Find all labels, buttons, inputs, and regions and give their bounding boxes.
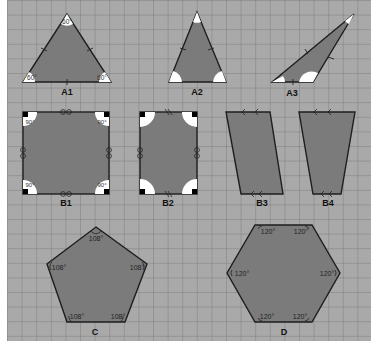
shape-label: D: [281, 327, 288, 337]
shape-label: A2: [191, 87, 203, 97]
angle-label: 90°: [97, 182, 107, 188]
shape-b1: 90° 90° 90° 90° B1: [21, 110, 112, 208]
right-angle-icon: [23, 112, 28, 117]
shape-label: A3: [286, 88, 298, 98]
right-angle-icon: [104, 189, 109, 194]
angle-label: 108°: [111, 313, 126, 320]
shape-label: C: [92, 327, 99, 337]
angle-label: 120°: [260, 313, 275, 320]
angle-label: 120°: [261, 228, 276, 235]
angle-label: 120°: [235, 270, 250, 277]
angle-label: 120°: [320, 270, 335, 277]
angle-label: 90°: [25, 182, 35, 188]
shapes-diagram: 60° 60° 60° A1 A2 A3: [0, 0, 371, 357]
shape-label: A1: [61, 87, 73, 97]
right-angle-icon: [140, 112, 145, 117]
angle-label: 120°: [293, 313, 308, 320]
angle-label: 120°: [294, 228, 309, 235]
right-angle-icon: [192, 112, 197, 117]
shape-b2: B2: [138, 109, 200, 208]
angle-label: 108°: [89, 235, 104, 242]
shape-label: B1: [60, 198, 72, 208]
angle-label: 60°: [62, 18, 72, 25]
angle-label: 90°: [25, 119, 35, 125]
shape-label: B2: [162, 198, 174, 208]
angle-label: 60°: [97, 74, 107, 81]
right-angle-icon: [104, 112, 109, 117]
angle-label: 108°: [52, 264, 67, 271]
right-angle-icon: [192, 189, 197, 194]
angle-label: 90°: [97, 119, 107, 125]
shape-label: B4: [322, 198, 334, 208]
right-angle-icon: [23, 189, 28, 194]
shape-label: B3: [256, 198, 268, 208]
angle-label: 108°: [130, 264, 145, 271]
right-angle-icon: [140, 189, 145, 194]
angle-label: 60°: [27, 74, 37, 81]
angle-label: 108°: [70, 313, 85, 320]
